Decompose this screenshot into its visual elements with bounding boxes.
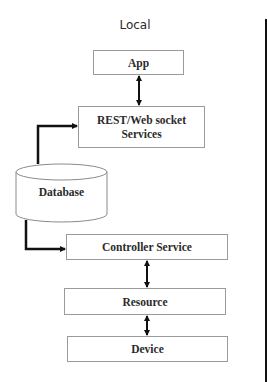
vertical-divider [265, 19, 267, 382]
node-database-label: Database [16, 186, 107, 198]
node-device: Device [67, 336, 228, 362]
node-rest-label-line1: REST/Web socket [97, 113, 186, 127]
node-resource: Resource [64, 288, 226, 315]
node-app: App [93, 50, 184, 75]
node-controller-service: Controller Service [66, 234, 228, 260]
node-app-label: App [128, 56, 149, 70]
node-resource-label: Resource [122, 295, 167, 309]
node-rest-services: REST/Web socket Services [78, 106, 205, 148]
node-rest-label-line2: Services [121, 127, 161, 141]
node-device-label: Device [131, 342, 164, 356]
diagram-canvas: Local Database App REST/Web [0, 0, 267, 382]
node-controller-label: Controller Service [102, 240, 192, 254]
arrow-database-controller [26, 220, 65, 249]
arrow-database-rest [38, 126, 77, 164]
